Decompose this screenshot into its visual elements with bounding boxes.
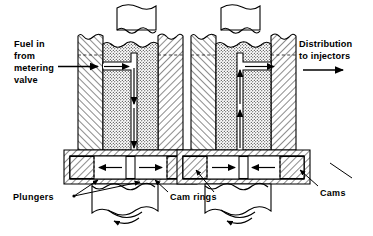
- pump-body-right-wall-2: [271, 34, 296, 150]
- distribution-line1: Distribution: [299, 39, 353, 49]
- fuel-in-line1: Fuel in: [14, 39, 45, 49]
- plungers-label: Plungers: [13, 192, 54, 202]
- cam-rings-label: Cam rings: [170, 192, 217, 202]
- plunger-left: [70, 157, 94, 179]
- fuel-in-line3: metering: [14, 63, 54, 73]
- plunger-left-2: [183, 157, 207, 179]
- pump-body-right-wall: [158, 34, 183, 150]
- cams-label: Cams: [320, 188, 346, 198]
- pump-body-left-wall: [78, 34, 103, 150]
- pump-body-left-wall-2: [191, 34, 216, 150]
- fuel-in-line4: valve: [14, 75, 38, 85]
- distributor-pump-diagram: Fuel in from metering valve Distribution…: [0, 0, 373, 236]
- distribution-line2: to injectors: [299, 51, 350, 61]
- plunger-chamber-left: [70, 156, 191, 179]
- rotor-shaft-right: [221, 5, 260, 34]
- figure-canvas: Fuel in from metering valve Distribution…: [0, 0, 373, 236]
- plunger-right-2: [280, 157, 304, 179]
- fuel-in-line2: from: [14, 51, 35, 61]
- rotor-shaft-left: [117, 5, 156, 34]
